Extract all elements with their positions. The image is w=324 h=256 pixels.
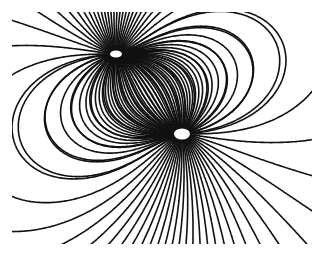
field-lines-graphic bbox=[12, 12, 312, 244]
field-lines-photo: Black-and-white photograph of curved fie… bbox=[12, 12, 312, 244]
upper-charge bbox=[110, 51, 122, 58]
lower-charge bbox=[174, 129, 190, 140]
